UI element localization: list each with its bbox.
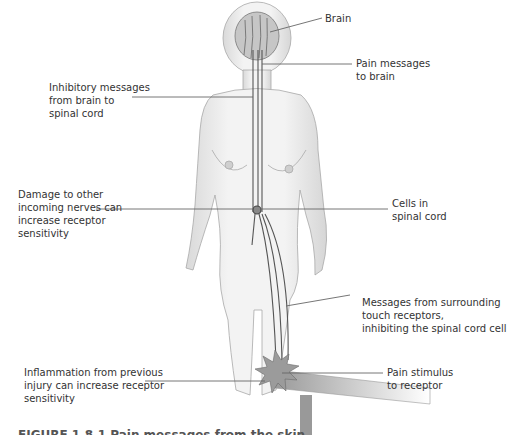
label-line: sensitivity [24,392,164,405]
label-line: Pain messages [356,57,430,70]
label-pain-messages: Pain messages to brain [356,57,430,83]
label-line: Messages from surrounding [362,296,507,309]
stimulus-object [255,350,430,435]
label-nerve-damage: Damage to other incoming nerves can incr… [18,188,122,240]
label-inflammation: Inflammation from previous injury can in… [24,366,164,405]
label-line: to receptor [387,379,453,392]
label-line: incoming nerves can [18,201,122,214]
label-line: Cells in [392,197,447,210]
label-line: Pain stimulus [387,366,453,379]
label-line: spinal cord [392,210,447,223]
label-spinal-cells: Cells in spinal cord [392,197,447,223]
label-line: touch receptors, [362,309,507,322]
label-line: increase receptor [18,214,122,227]
label-line: Damage to other [18,188,122,201]
figure-caption: FIGURE 1.8.1 Pain messages from the skin… [18,428,323,435]
brain-illustration [235,12,279,60]
label-line: Inhibitory messages [49,81,150,94]
label-line: spinal cord [49,107,150,120]
label-line: to brain [356,70,430,83]
label-line: inhibiting the spinal cord cell [362,322,507,335]
label-brain: Brain [325,12,351,25]
human-figure [186,2,327,395]
label-line: Inflammation from previous [24,366,164,379]
label-line: Brain [325,12,351,25]
label-line: from brain to [49,94,150,107]
label-pain-stimulus: Pain stimulus to receptor [387,366,453,392]
label-touch-receptors: Messages from surrounding touch receptor… [362,296,507,335]
label-line: injury can increase receptor [24,379,164,392]
label-inhibitory-messages: Inhibitory messages from brain to spinal… [49,81,150,120]
label-line: sensitivity [18,227,122,240]
